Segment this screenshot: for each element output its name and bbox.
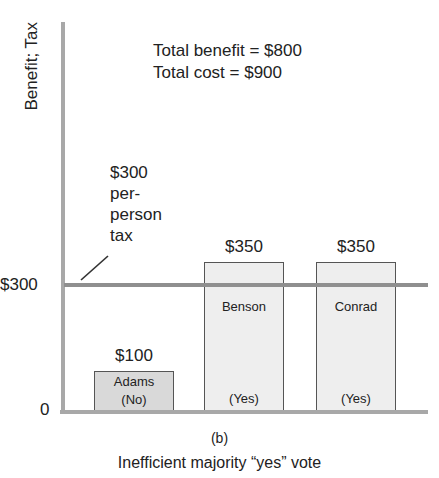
- bar-name: Benson: [205, 299, 283, 314]
- bar-name: Adams: [95, 374, 173, 389]
- y-tick-0: 0: [40, 400, 49, 420]
- bar-vote: (Yes): [205, 391, 283, 406]
- panel-label: (b): [0, 430, 439, 446]
- bar-vote: (Yes): [317, 391, 395, 406]
- bar-value-label: $100: [94, 346, 174, 366]
- tax-reference-line: [64, 283, 428, 287]
- x-axis: [60, 410, 428, 414]
- y-tick-300: $300: [0, 275, 38, 295]
- bar-value-label: $350: [204, 237, 284, 257]
- bar-vote: (No): [95, 392, 173, 407]
- chart-title: Inefficient majority “yes” vote: [0, 454, 439, 472]
- bar-adams: Adams (No): [94, 371, 174, 412]
- bar-value-label: $350: [316, 237, 396, 257]
- bar-name: Conrad: [317, 299, 395, 314]
